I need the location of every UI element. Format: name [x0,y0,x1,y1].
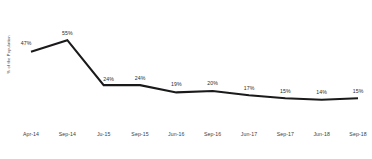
data-point-label: 14% [316,89,327,95]
data-point-label: 55% [62,30,73,36]
series-line-path [31,40,358,100]
data-point-label: 17% [244,85,255,91]
data-point-label: 19% [171,81,182,87]
y-axis-label: % of the Population [6,21,11,89]
x-axis-tick-label: Sep-17 [277,131,294,137]
line-chart: % of the Population 47%55%24%24%19%20%17… [0,0,372,159]
data-point-label: 24% [103,76,114,82]
x-axis-tick-label: Jun-17 [241,131,257,137]
x-axis-tick-label: Jun-18 [313,131,329,137]
data-point-label: 15% [280,88,291,94]
data-point-label: 24% [135,75,146,81]
x-axis-tick-label: Sep-14 [59,131,76,137]
data-point-label: 47% [21,40,32,46]
x-axis-tick-label: Sep-16 [204,131,221,137]
chart-title [30,0,350,3]
x-axis-tick-label: Jun-16 [168,131,184,137]
x-axis-tick-label: Sep-18 [349,131,366,137]
x-axis-tick-group: Apr-14Sep-14Ju-15Sep-15Jun-16Sep-16Jun-1… [16,131,368,143]
x-axis-tick-label: Ju-15 [97,131,110,137]
x-axis-tick-label: Apr-14 [23,131,39,137]
x-axis-tick-label: Sep-15 [131,131,148,137]
data-point-label: 20% [207,80,218,86]
series-line-svg [16,8,368,126]
data-point-label: 15% [353,88,364,94]
plot-area: 47%55%24%24%19%20%17%15%14%15% [16,8,368,126]
